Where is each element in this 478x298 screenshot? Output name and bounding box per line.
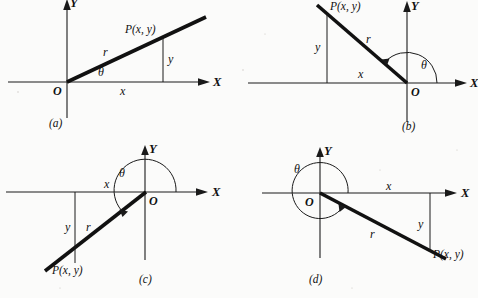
panel-d-x-leg-label: x (385, 179, 392, 193)
panel-b-x-axis-label: X (469, 76, 478, 90)
panel-b-radius-label: r (366, 32, 371, 46)
panel-b-y-axis-label: Y (411, 0, 420, 13)
panel-a-point-label: P(x, y) (124, 23, 156, 36)
panel-a-angle-label: θ (98, 65, 104, 79)
panel-a-caption: (a) (49, 117, 63, 130)
panel-d-angle-label: θ (294, 162, 300, 176)
panel-a-x-leg-label: x (119, 84, 126, 98)
panel-b-origin-label: O (411, 85, 420, 99)
panel-d-y-axis-label: Y (324, 144, 333, 158)
paper-speck (456, 149, 457, 150)
panel-c-x-axis-arrowhead (196, 188, 208, 196)
panel-c-x-leg-label: x (103, 177, 110, 191)
panel-d: X Y O P(x, y) r x y θ (d) (262, 144, 470, 286)
panel-c-origin-label: O (149, 194, 158, 208)
panel-b-point-label: P(x, y) (329, 0, 361, 13)
panel-b-angle-arc (385, 52, 437, 83)
panel-b-y-axis-arrowhead (403, 1, 411, 12)
paper-speck (242, 69, 243, 70)
panel-a-y-leg-label: y (167, 52, 174, 66)
panel-d-caption: (d) (309, 273, 323, 286)
panel-c-y-axis-label: Y (149, 142, 158, 156)
panel-d-origin-label: O (305, 195, 314, 209)
figure-canvas: X Y O P(x, y) r x y θ (a) X (0, 0, 478, 298)
panel-c-terminal-ray (45, 192, 146, 271)
panel-c-radius-label: r (86, 220, 91, 234)
trigonometry-quadrants-figure: X Y O P(x, y) r x y θ (a) X (0, 0, 478, 298)
paper-speck (379, 169, 380, 170)
panel-a-x-axis-arrowhead (198, 78, 210, 86)
panel-a: X Y O P(x, y) r x y θ (a) (8, 0, 222, 130)
panel-b-x-axis-arrowhead (455, 79, 467, 87)
panel-a-radius-label: r (103, 45, 108, 59)
panel-c-x-axis-label: X (211, 185, 221, 199)
panel-c-caption: (c) (139, 273, 152, 286)
panel-a-x-axis-label: X (212, 75, 222, 89)
panel-b-x-leg-label: x (357, 67, 364, 81)
panel-b-y-leg-label: y (314, 40, 321, 54)
panel-d-x-axis-arrowhead (445, 189, 457, 197)
panel-c-y-axis-arrowhead (141, 145, 149, 155)
panel-c: X Y O P(x, y) r x y θ (c) (6, 142, 221, 286)
panel-d-y-axis-arrowhead (316, 147, 324, 157)
panel-d-point-label: P(x, y) (432, 248, 464, 261)
panel-c-y-leg-label: y (64, 220, 71, 234)
panel-a-origin-label: O (53, 84, 62, 98)
panel-c-point-label: P(x, y) (51, 264, 83, 277)
panel-a-y-axis-label: Y (70, 0, 79, 10)
panel-d-x-axis-label: X (460, 186, 470, 200)
paper-speck (17, 91, 18, 92)
panel-b-angle-label: θ (421, 58, 427, 72)
panel-d-y-leg-label: y (417, 217, 424, 231)
paper-speck (351, 287, 352, 288)
panel-d-terminal-ray (320, 193, 446, 259)
panel-b-caption: (b) (402, 120, 416, 133)
panel-b: X Y O P(x, y) r x y θ (b) (248, 0, 478, 133)
panel-d-radius-label: r (370, 227, 375, 241)
paper-speck (264, 33, 265, 34)
panel-c-angle-label: θ (119, 166, 125, 180)
paper-speck (59, 287, 60, 288)
